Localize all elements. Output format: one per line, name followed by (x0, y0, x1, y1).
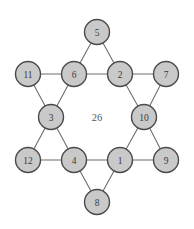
node-5[interactable]: 5 (85, 20, 110, 45)
node-11[interactable]: 11 (16, 62, 41, 87)
node-circle-1[interactable] (108, 148, 133, 173)
hexagram-diagram: 511627310124198 26 (0, 0, 194, 229)
node-4[interactable]: 4 (62, 148, 87, 173)
node-circle-9[interactable] (154, 148, 179, 173)
node-3[interactable]: 3 (39, 105, 64, 130)
magic-star-figure: 511627310124198 26 (0, 0, 194, 229)
node-6[interactable]: 6 (62, 62, 87, 87)
node-circle-7[interactable] (154, 62, 179, 87)
node-circle-8[interactable] (85, 190, 110, 215)
node-circle-10[interactable] (132, 105, 157, 130)
node-1[interactable]: 1 (108, 148, 133, 173)
center-sum-label: 26 (92, 112, 103, 123)
node-2[interactable]: 2 (108, 62, 133, 87)
node-8[interactable]: 8 (85, 190, 110, 215)
node-circle-6[interactable] (62, 62, 87, 87)
node-12[interactable]: 12 (16, 148, 41, 173)
node-10[interactable]: 10 (132, 105, 157, 130)
node-7[interactable]: 7 (154, 62, 179, 87)
node-9[interactable]: 9 (154, 148, 179, 173)
node-circle-4[interactable] (62, 148, 87, 173)
node-circle-3[interactable] (39, 105, 64, 130)
node-circle-2[interactable] (108, 62, 133, 87)
node-circle-12[interactable] (16, 148, 41, 173)
node-circle-11[interactable] (16, 62, 41, 87)
node-circle-5[interactable] (85, 20, 110, 45)
